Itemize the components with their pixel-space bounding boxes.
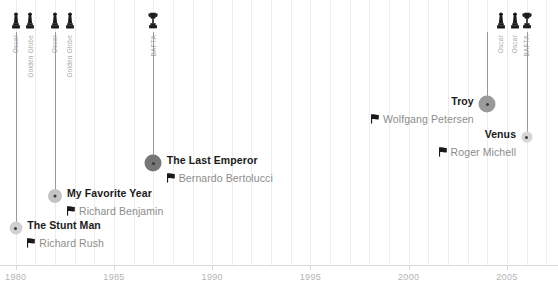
gridline (330, 0, 331, 265)
entry-label: The Last EmperorBernardo Bertolucci (167, 154, 273, 189)
director-row: Roger Michell (439, 142, 517, 162)
director-name: Richard Benjamin (79, 205, 163, 218)
entry-label: The Stunt ManRichard Rush (27, 219, 104, 254)
marker-core (152, 162, 155, 165)
director-name: Bernardo Bertolucci (179, 172, 273, 185)
director-row: Richard Rush (27, 233, 104, 253)
marker-core (486, 103, 489, 106)
gridline (389, 0, 390, 265)
trophy-icon (148, 12, 159, 33)
oscar-icon (510, 12, 519, 33)
award-label: Oscar (498, 35, 505, 53)
gridline (350, 0, 351, 265)
entry-stem (527, 32, 528, 137)
film-title: Troy (371, 95, 474, 108)
oscar-icon (497, 12, 506, 33)
award-label: Oscar (512, 35, 519, 53)
x-axis-line (0, 265, 558, 266)
entry-label: TroyWolfgang Petersen (371, 95, 474, 130)
entry-marker[interactable] (479, 96, 496, 113)
axis-tick-label: 1980 (5, 272, 26, 282)
film-title: The Last Emperor (167, 154, 273, 167)
entry-marker[interactable] (9, 222, 22, 235)
award-label: Golden Globe (27, 35, 34, 78)
entry-stem (153, 32, 154, 163)
award-oscar-icon: Oscar (497, 12, 506, 53)
axis-tick-label: 2005 (496, 272, 517, 282)
gridline (310, 0, 311, 265)
oscar-icon (26, 12, 35, 33)
entry-stem (16, 32, 17, 228)
director-name: Roger Michell (451, 146, 517, 159)
axis-tick (507, 265, 508, 270)
axis-tick-label: 2000 (398, 272, 419, 282)
marker-core (54, 195, 57, 198)
gridline (134, 0, 135, 265)
award-label: Golden Globe (67, 35, 74, 78)
axis-tick-label: 1995 (300, 272, 321, 282)
director-row: Richard Benjamin (67, 201, 163, 221)
axis-tick (114, 265, 115, 270)
oscar-icon (65, 12, 74, 33)
director-row: Wolfgang Petersen (371, 109, 474, 129)
director-name: Wolfgang Petersen (383, 113, 474, 126)
axis-tick (212, 265, 213, 270)
director-name: Richard Rush (39, 237, 104, 250)
film-icon (371, 109, 380, 129)
film-title: My Favorite Year (67, 187, 163, 200)
award-oscar-icon: Golden Globe (26, 12, 35, 78)
entry-stem (487, 32, 488, 104)
trophy-icon (521, 12, 532, 33)
gridline (428, 0, 429, 265)
award-oscar-icon: Golden Globe (65, 12, 74, 78)
gridline (546, 0, 547, 265)
marker-core (525, 136, 528, 139)
film-icon (67, 201, 76, 221)
entry-label: My Favorite YearRichard Benjamin (67, 187, 163, 222)
axis-tick (310, 265, 311, 270)
film-icon (439, 142, 448, 162)
entry-marker[interactable] (48, 189, 62, 203)
entry-marker[interactable] (145, 155, 162, 172)
gridline (251, 0, 252, 265)
axis-tick-label: 1990 (202, 272, 223, 282)
gridline (291, 0, 292, 265)
oscar-icon (51, 12, 60, 33)
award-oscar-icon: Oscar (510, 12, 519, 53)
oscar-icon (11, 12, 20, 33)
entry-label: VenusRoger Michell (439, 128, 517, 163)
timeline-chart: 198019851990199520002005OscarGolden Glob… (0, 0, 558, 287)
gridline (369, 0, 370, 265)
gridline (212, 0, 213, 265)
film-icon (167, 168, 176, 188)
film-icon (27, 233, 36, 253)
entry-marker[interactable] (521, 132, 532, 143)
director-row: Bernardo Bertolucci (167, 168, 273, 188)
axis-tick-label: 1985 (103, 272, 124, 282)
marker-core (14, 227, 17, 230)
gridline (271, 0, 272, 265)
gridline (173, 0, 174, 265)
axis-tick (16, 265, 17, 270)
gridline (409, 0, 410, 265)
gridline (114, 0, 115, 265)
entry-stem (55, 32, 56, 196)
axis-tick (409, 265, 410, 270)
film-title: Venus (439, 128, 517, 141)
gridline (232, 0, 233, 265)
gridline (193, 0, 194, 265)
